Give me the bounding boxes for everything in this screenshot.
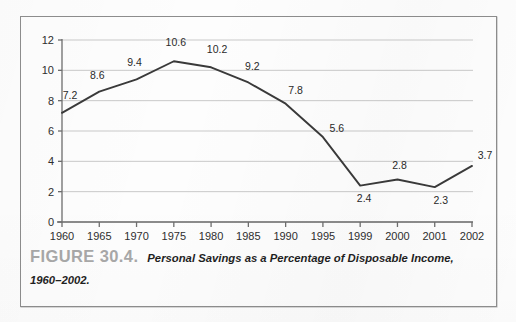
- figure-caption: FIGURE 30.4. Personal Savings as a Perce…: [30, 246, 480, 289]
- data-point-label: 9.4: [127, 56, 142, 68]
- y-axis-tick-label: 0: [22, 216, 54, 228]
- y-axis-tick-label: 8: [22, 95, 54, 107]
- x-axis-tick-label: 1970: [124, 230, 148, 242]
- data-point-label: 2.4: [357, 192, 372, 204]
- data-line-series: [62, 61, 472, 187]
- y-axis-tick-label: 2: [22, 186, 54, 198]
- figure-container: 0246810121960196519701975198019851990199…: [0, 0, 516, 322]
- data-point-label: 5.6: [330, 122, 345, 134]
- x-axis-tick-label: 1990: [273, 230, 297, 242]
- data-point-label: 10.2: [207, 43, 227, 55]
- y-axis-tick-label: 10: [22, 64, 54, 76]
- data-point-label: 7.8: [288, 84, 303, 96]
- y-axis-tick-label: 12: [22, 34, 54, 46]
- x-axis-tick-label: 1975: [162, 230, 186, 242]
- figure-number: FIGURE 30.4.: [30, 247, 138, 265]
- data-point-label: 8.6: [90, 69, 105, 81]
- x-axis-tick-label: 1965: [87, 230, 111, 242]
- x-axis-tick-label: 1960: [50, 230, 74, 242]
- x-axis-tick-label: 1985: [236, 230, 260, 242]
- x-axis-tick-label: 1995: [311, 230, 335, 242]
- x-axis-tick-label: 1999: [348, 230, 372, 242]
- data-point-label: 2.8: [392, 159, 407, 171]
- data-point-label: 2.3: [433, 194, 448, 206]
- x-axis-tick-label: 2001: [422, 230, 446, 242]
- x-axis-tick-label: 1980: [199, 230, 223, 242]
- data-point-label: 3.7: [478, 149, 493, 161]
- y-axis-tick-label: 4: [22, 155, 54, 167]
- data-point-label: 9.2: [245, 60, 260, 72]
- y-axis-tick-label: 6: [22, 125, 54, 137]
- data-point-label: 10.6: [166, 36, 186, 48]
- x-axis-tick-label: 2000: [385, 230, 409, 242]
- x-axis-tick-label: 2002: [460, 230, 484, 242]
- data-point-label: 7.2: [63, 89, 78, 101]
